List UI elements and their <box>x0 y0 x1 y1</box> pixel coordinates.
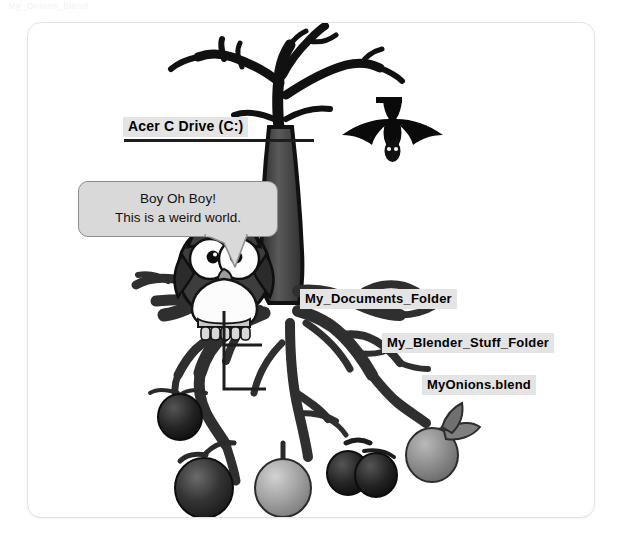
leader-line-drive <box>124 139 314 142</box>
owl-speech-bubble: Boy Oh Boy! This is a weird world. <box>78 181 278 237</box>
speech-bubble-tail <box>204 234 248 268</box>
speech-bubble-line-2: This is a weird world. <box>78 208 278 227</box>
label-acer-c-drive[interactable]: Acer C Drive (C:) <box>123 117 248 137</box>
illustration-stage: My_Onions_blend <box>0 0 622 541</box>
speech-bubble-text: Boy Oh Boy! This is a weird world. <box>78 189 278 227</box>
tree-group <box>136 26 480 518</box>
label-my-documents-folder[interactable]: My_Documents_Folder <box>300 289 457 309</box>
label-myonions-blend[interactable]: MyOnions.blend <box>422 375 536 395</box>
image-card: Acer C Drive (C:) My_Documents_Folder My… <box>27 22 595 518</box>
bat-character <box>342 97 443 162</box>
tree-illustration <box>28 23 595 518</box>
ghost-header-text: My_Onions_blend <box>8 1 88 11</box>
speech-bubble-line-1: Boy Oh Boy! <box>78 189 278 208</box>
label-my-blender-stuff-folder[interactable]: My_Blender_Stuff_Folder <box>382 333 554 353</box>
fruit-onion-dark-pair <box>327 440 397 497</box>
